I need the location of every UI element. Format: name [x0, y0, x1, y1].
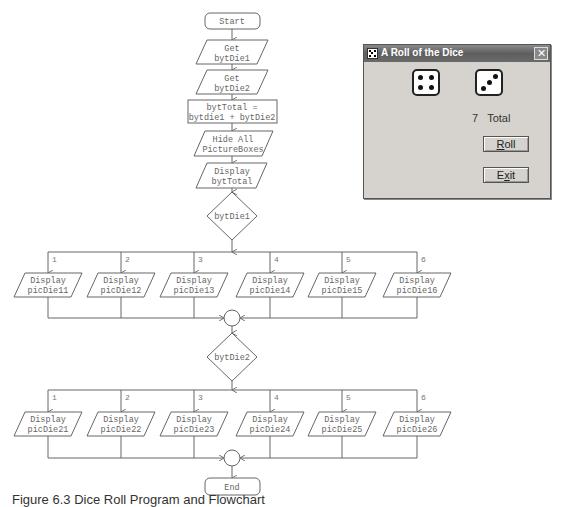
row2-item1-line2: picDie21	[28, 425, 69, 435]
row2-shapes	[14, 412, 451, 436]
figure-caption: Figure 6.3 Dice Roll Program and Flowcha…	[12, 492, 265, 507]
case-label: 6	[421, 255, 426, 264]
row2-item6-line2: picDie26	[397, 425, 438, 435]
window-title: A Roll of the Dice	[381, 47, 463, 58]
close-button[interactable]: ✕	[534, 47, 548, 60]
merge-connector-1	[224, 310, 240, 326]
case-label: 3	[198, 255, 203, 264]
step2-line2: bytDie2	[214, 84, 250, 94]
step5-line2: bytTotal	[212, 177, 253, 187]
die2-picture	[475, 69, 503, 96]
row2-item5-line1: Display	[324, 415, 360, 425]
dice-app-icon	[367, 48, 378, 59]
step5-line1: Display	[214, 167, 250, 177]
row2-item1-line1: Display	[30, 415, 66, 425]
step3-line2: bytdie1 + bytDie2	[189, 113, 276, 123]
case-label: 4	[274, 393, 279, 402]
case-label: 1	[52, 393, 57, 402]
total-label: Total	[487, 112, 510, 124]
case-label: 1	[52, 255, 57, 264]
roll-label-suffix: oll	[504, 138, 515, 150]
row2-item2-line2: picDie22	[101, 425, 142, 435]
row2-item6-line1: Display	[399, 415, 435, 425]
case-label: 2	[125, 393, 130, 402]
row1-shapes	[14, 273, 451, 297]
case-label: 5	[346, 393, 351, 402]
row1-item4-line1: Display	[252, 276, 288, 286]
step1-line2: bytDie1	[214, 54, 250, 64]
step3-line1: bytTotal =	[206, 103, 257, 113]
row2-branches	[48, 390, 417, 412]
total-value: 7	[472, 112, 478, 124]
die1-picture	[412, 69, 440, 96]
case-label: 3	[198, 393, 203, 402]
row1-item2-line2: picDie12	[101, 286, 142, 296]
step4-line1: Hide All	[213, 135, 254, 145]
row1-item5-line1: Display	[324, 276, 360, 286]
row1-item2-line1: Display	[103, 276, 139, 286]
row1-item6-line2: picDie16	[397, 286, 438, 296]
exit-button[interactable]: Exit	[483, 167, 529, 183]
merge-connector-2	[224, 450, 240, 466]
row2-item3-line1: Display	[176, 415, 212, 425]
row1-item5-line2: picDie15	[322, 286, 363, 296]
total-display: 7Total	[472, 112, 519, 124]
exit-label-suffix: it	[510, 169, 516, 181]
decision1-label: bytDie1	[214, 212, 250, 222]
start-label: Start	[219, 17, 245, 27]
row1-branches	[48, 252, 417, 273]
case-label: 4	[274, 255, 279, 264]
row1-item1-line1: Display	[30, 276, 66, 286]
row1-item3-line1: Display	[176, 276, 212, 286]
step2-line1: Get	[224, 74, 239, 84]
title-bar[interactable]: A Roll of the Dice ✕	[364, 45, 550, 62]
case-label: 2	[125, 255, 130, 264]
row2-item3-line2: picDie23	[174, 425, 215, 435]
row2-item2-line1: Display	[103, 415, 139, 425]
case-label: 6	[421, 393, 426, 402]
step4-line2: PictureBoxes	[202, 145, 263, 155]
step1-line1: Get	[224, 44, 239, 54]
row2-item5-line2: picDie25	[322, 425, 363, 435]
row1-item6-line1: Display	[399, 276, 435, 286]
row1-item4-line2: picDie14	[250, 286, 291, 296]
close-icon: ✕	[537, 47, 546, 59]
row2-item4-line1: Display	[252, 415, 288, 425]
row1-item3-line2: picDie13	[174, 286, 215, 296]
row1-item1-line2: picDie11	[28, 286, 69, 296]
dice-roll-window: A Roll of the Dice ✕ 7Total Roll Exit	[363, 44, 551, 199]
roll-button[interactable]: Roll	[483, 136, 529, 152]
case-label: 5	[346, 255, 351, 264]
row2-item4-line2: picDie24	[250, 425, 291, 435]
decision2-label: bytDie2	[214, 353, 250, 363]
